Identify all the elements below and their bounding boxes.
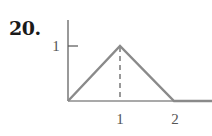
x-tick-label-2: 2 (171, 111, 179, 127)
y-tick-label-1: 1 (52, 38, 60, 54)
triangle-function-plot: 1 1 2 (0, 0, 212, 136)
x-tick-label-1: 1 (116, 111, 124, 127)
function-curve (68, 46, 212, 101)
